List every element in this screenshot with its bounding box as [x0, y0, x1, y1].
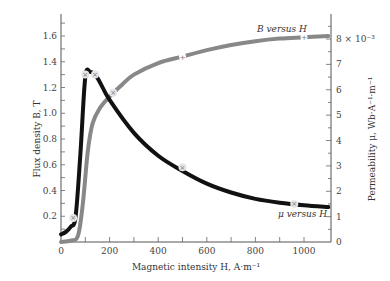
y-axis-label: Flux density B, T: [32, 100, 42, 177]
y2-tick-label: 3: [336, 161, 342, 171]
y2-tick-label: 7: [336, 59, 342, 69]
svg-text:×: ×: [70, 214, 76, 222]
chart: 020040060080010000.20.40.60.81.01.21.41.…: [0, 0, 390, 281]
x-tick-label: 800: [247, 246, 264, 256]
svg-text:×: ×: [180, 164, 186, 172]
y2-tick-label: 1: [336, 212, 342, 222]
x-tick-label: 200: [101, 246, 118, 256]
svg-text:+: +: [179, 53, 186, 62]
y2-tick-label: 2: [336, 186, 342, 196]
y-tick-label: 0.6: [43, 160, 58, 170]
y2-tick-label: 8 × 10⁻³: [336, 34, 375, 44]
y-tick-label: 0.4: [43, 186, 58, 196]
svg-text:×: ×: [92, 71, 98, 79]
y2-tick-label: 6: [336, 85, 342, 95]
svg-text:×: ×: [82, 71, 88, 79]
y-tick-label: 0.8: [43, 134, 58, 144]
x-tick-label: 600: [198, 246, 215, 256]
x-tick-label: 0: [58, 246, 64, 256]
y2-axis-label: Permeability μ, Wb·A⁻¹·m⁻¹: [367, 77, 377, 202]
y-tick-label: 1.6: [43, 31, 58, 41]
svg-text:×: ×: [110, 89, 116, 97]
x-tick-label: 1000: [293, 246, 316, 256]
y-tick-label: 1.0: [43, 108, 58, 118]
b-curve-label: B versus H: [256, 24, 307, 34]
y-tick-label: 1.2: [43, 83, 57, 93]
y2-tick-label: 4: [336, 136, 342, 146]
y-tick-label: 0.2: [43, 211, 57, 221]
x-tick-label: 400: [150, 246, 167, 256]
svg-text:+: +: [301, 33, 308, 42]
y2-tick-label: 5: [336, 110, 342, 120]
svg-text:×: ×: [291, 200, 297, 208]
y-tick-label: 1.4: [43, 57, 58, 67]
x-axis-label: Magnetic intensity H, A·m⁻¹: [132, 262, 260, 272]
mu-curve-label: μ versus H: [278, 209, 327, 219]
y2-tick-label: 0: [336, 237, 342, 247]
